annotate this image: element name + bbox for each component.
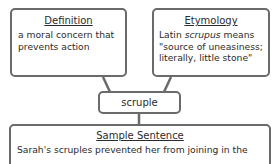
- term-text: scruple: [121, 97, 157, 108]
- term-box: scruple: [98, 91, 181, 114]
- definition-heading: Definition: [18, 14, 119, 27]
- etymology-heading: Etymology: [159, 14, 263, 27]
- sample-sentence-box: Sample Sentence Sarah's scruples prevent…: [9, 124, 271, 164]
- etymology-box: Etymology Latin scrupus means "source of…: [152, 8, 270, 77]
- etymology-suffix: means: [221, 29, 255, 40]
- sample-sentence-heading: Sample Sentence: [17, 129, 263, 142]
- etymology-prefix: Latin: [159, 29, 185, 40]
- etymology-line3: literally, little stone": [159, 52, 263, 64]
- etymology-line2: "source of uneasiness;: [159, 41, 263, 53]
- etymology-latin-word: scrupus: [185, 29, 221, 40]
- etymology-line1: Latin scrupus means: [159, 29, 263, 41]
- sample-sentence-text: Sarah's scruples prevented her from join…: [17, 144, 263, 156]
- definition-box: Definition a moral concern that prevents…: [10, 8, 127, 77]
- definition-text: a moral concern that prevents action: [18, 29, 119, 52]
